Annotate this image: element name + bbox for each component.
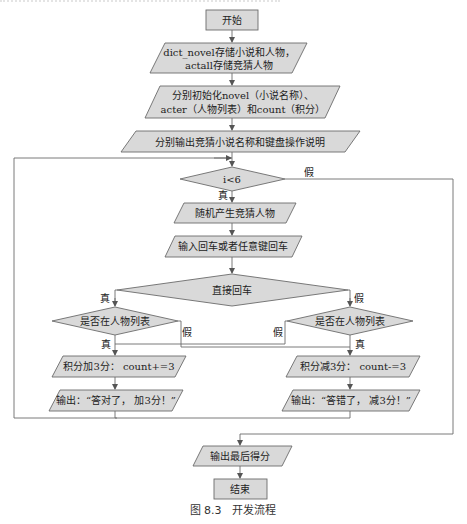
end-node: 结束 [214,479,267,499]
in-list-right-label: 是否在人物列表 [315,315,385,327]
init-dict-line1: dict_novel存储小说和人物， [163,46,294,59]
start-node: 开始 [206,10,258,30]
init-dict-line2: actall存储竞猜人物 [185,59,273,71]
edge [115,411,350,418]
enter-decision-node: 直接回车 [117,274,348,306]
left-true-label: 真 [101,338,111,350]
loop-decision-node: i<6 [180,167,285,191]
end-label: 结束 [230,483,250,495]
output-final-label: 输出最后得分 [210,450,270,462]
output-wrong-node: 输出：“答错了， 减3分！” [282,390,420,411]
loop-false-label: 假 [304,166,314,178]
in-list-left-node: 是否在人物列表 [52,307,178,335]
enter-false-label: 假 [354,292,364,304]
in-list-left-label: 是否在人物列表 [80,315,150,327]
input-key-label: 输入回车或者任意键回车 [178,240,288,252]
output-right-node: 输出：“答对了， 加3分！” [49,390,183,411]
enter-true-label: 真 [100,292,110,304]
random-pick-node: 随机产生竞猜人物 [174,203,296,223]
enter-decision-label: 直接回车 [212,284,252,296]
right-true-label: 真 [355,338,365,350]
loop-true-label: 真 [218,189,228,201]
add-score-node: 积分加3分： count+=3 [52,356,186,377]
in-list-right-node: 是否在人物列表 [287,307,413,335]
init-vars-line2: acter（人物列表）和count（积分） [161,103,326,115]
start-label: 开始 [222,14,242,26]
sub-score-node: 积分减3分： count-=3 [286,356,420,377]
output-intro-label: 分别输出竞猜小说名称和键盘操作说明 [155,136,325,148]
random-pick-label: 随机产生竞猜人物 [195,207,275,219]
output-wrong-label: 输出：“答错了， 减3分！” [291,394,411,406]
left-false-label: 假 [182,326,192,338]
sub-score-label: 积分减3分： count-=3 [300,361,406,372]
right-false-label: 假 [273,326,283,338]
output-intro-node: 分别输出竞猜小说名称和键盘操作说明 [121,131,360,152]
init-dict-node: dict_novel存储小说和人物， actall存储竞猜人物 [150,43,307,73]
input-key-node: 输入回车或者任意键回车 [165,236,302,257]
loop-condition-label: i<6 [223,174,241,185]
flowchart: 开始 dict_novel存储小说和人物， actall存储竞猜人物 分别初始化… [0,0,467,524]
init-vars-line1: 分别初始化novel（小说名称）、 [172,89,314,101]
output-right-label: 输出：“答对了， 加3分！” [56,394,176,406]
add-score-label: 积分加3分： count+=3 [63,361,174,372]
output-final-node: 输出最后得分 [193,446,292,466]
figure-caption: 图 8.3 开发流程 [190,503,277,517]
init-vars-node: 分别初始化novel（小说名称）、 acter（人物列表）和count（积分） [145,86,340,118]
